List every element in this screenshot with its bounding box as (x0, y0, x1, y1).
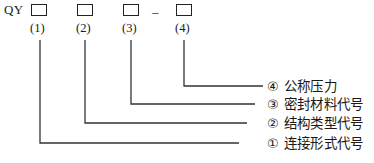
slot-number-1: (1) (30, 21, 45, 35)
legend-text-2: 结构类型代号 (284, 115, 363, 132)
legend-text-1: 连接形式代号 (284, 135, 363, 152)
code-box-1[interactable] (31, 4, 47, 16)
legend-row-1: ① 连接形式代号 (267, 135, 363, 152)
legend-text-3: 密封材料代号 (284, 96, 363, 113)
code-box-2[interactable] (77, 4, 93, 16)
separator-dash: – (152, 5, 159, 18)
legend-marker-2: ② (267, 115, 284, 132)
legend-row-4: ④ 公称压力 (267, 78, 337, 95)
code-box-3[interactable] (123, 4, 139, 16)
code-box-4[interactable] (176, 4, 192, 16)
legend-marker-3: ③ (267, 96, 284, 113)
slot-number-3: (3) (122, 21, 137, 35)
slot-number-2: (2) (76, 21, 91, 35)
model-prefix: QY (4, 2, 23, 17)
model-designation-diagram: QY – (1) (2) (3) (4) ④ 公称压力 ③ 密封材料代号 ② 结… (0, 0, 374, 163)
legend-marker-1: ① (267, 135, 284, 152)
slot-number-4: (4) (175, 21, 190, 35)
legend-row-2: ② 结构类型代号 (267, 115, 363, 132)
legend-text-4: 公称压力 (284, 78, 337, 95)
legend-row-3: ③ 密封材料代号 (267, 96, 363, 113)
legend-marker-4: ④ (267, 78, 284, 95)
